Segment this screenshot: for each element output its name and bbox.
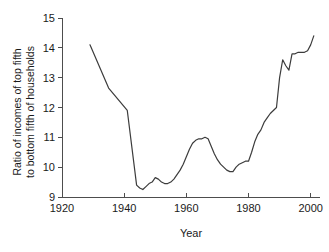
x-tick-label: 1960	[174, 202, 198, 214]
y-tick-label: 10	[43, 161, 55, 173]
y-axis-label-line2: to bottom fifth of households	[24, 46, 36, 178]
y-axis-label-line1: Ratio of incomes of top fifth	[11, 48, 23, 175]
y-axis-ticks: 9101112131415	[43, 12, 62, 203]
line-chart: Ratio of incomes of top fifth to bottom …	[0, 0, 329, 252]
x-tick-label: 1980	[236, 202, 260, 214]
x-axis-title: Year	[180, 227, 203, 239]
y-tick-label: 13	[43, 72, 55, 84]
y-axis-label-group: Ratio of incomes of top fifth to bottom …	[11, 46, 36, 178]
x-tick-label: 1920	[50, 202, 74, 214]
chart-figure: Ratio of incomes of top fifth to bottom …	[0, 0, 329, 252]
y-tick-label: 12	[43, 102, 55, 114]
x-axis-ticks: 19201940196019802000	[50, 193, 323, 214]
x-tick-label: 2000	[298, 202, 322, 214]
y-tick-label: 11	[44, 131, 55, 143]
x-tick-label: 1940	[112, 202, 136, 214]
y-tick-label: 15	[43, 12, 55, 24]
data-series-line	[90, 36, 314, 190]
y-tick-label: 14	[43, 42, 55, 54]
